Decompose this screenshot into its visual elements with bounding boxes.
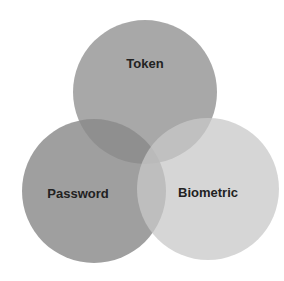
- label-biometric: Biometric: [178, 185, 238, 200]
- label-token: Token: [126, 56, 163, 71]
- label-password: Password: [47, 186, 108, 201]
- venn-diagram: Token Password Biometric: [0, 0, 284, 281]
